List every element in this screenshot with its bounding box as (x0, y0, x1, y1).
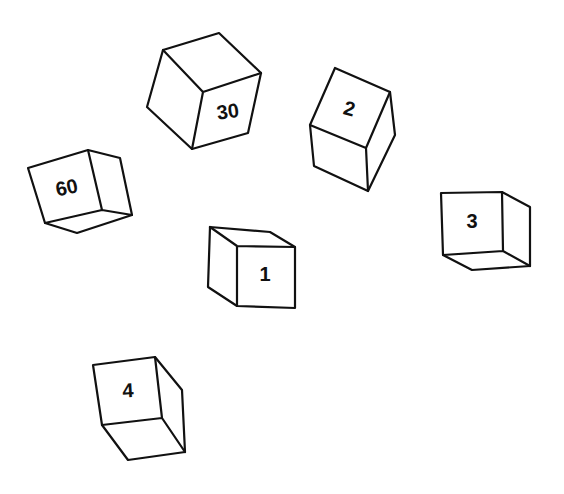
cube-number-label: 1 (259, 263, 270, 285)
cube-number-label: 3 (466, 210, 477, 232)
cube-60: 60 (28, 150, 132, 233)
cube-number-label: 4 (122, 379, 135, 402)
cube-number-label: 60 (53, 174, 79, 200)
cube-silhouette-fill (93, 357, 185, 460)
cube-2: 2 (310, 68, 395, 191)
cube-1: 1 (208, 227, 295, 308)
cube-number-label: 30 (215, 99, 240, 124)
cube-30: 30 (147, 33, 261, 149)
cubes-diagram: 30260134 (0, 0, 564, 494)
cube-4: 4 (93, 357, 185, 460)
cube-3: 3 (441, 192, 530, 270)
